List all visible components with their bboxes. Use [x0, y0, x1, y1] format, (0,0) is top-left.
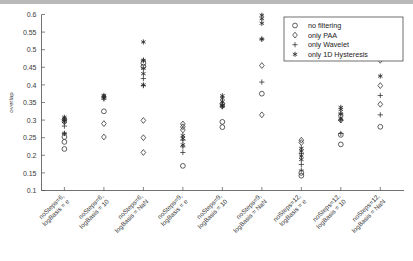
data-point-circle: [378, 124, 383, 129]
data-point-circle: [338, 142, 343, 147]
data-point-star: [260, 21, 264, 26]
x-tick-label: noSteps=6,logBasis = 10: [72, 192, 111, 231]
data-point-circle: [259, 91, 264, 96]
legend: no filteringonly PAAonly Waveletonly 1D …: [284, 17, 403, 61]
data-point-circle: [62, 140, 67, 145]
x-tick-label: noSteps=9,logBasis = 10: [191, 192, 230, 231]
data-point-diamond: [378, 101, 383, 107]
data-point-circle: [101, 109, 106, 114]
x-tick-label: noSteps=12,logBasis = 10: [309, 192, 348, 231]
data-point-diamond: [260, 63, 265, 69]
y-tick-label: 0.2: [27, 152, 37, 159]
data-point-plus: [378, 112, 383, 117]
y-tick-label: 0.35: [23, 99, 37, 106]
data-point-star: [141, 39, 145, 44]
data-point-star: [339, 105, 343, 110]
data-point-circle: [180, 163, 185, 168]
x-tick-label: noSteps=9,logBasis = NaN: [226, 192, 269, 235]
y-tick-label: 0.15: [23, 170, 37, 177]
series-circle: [62, 61, 383, 178]
data-point-star: [62, 115, 66, 120]
legend-label: only 1D Hysteresis: [308, 50, 368, 59]
data-point-plus: [299, 162, 304, 167]
y-axis-label: overlap: [7, 92, 14, 113]
data-point-diamond: [141, 150, 146, 156]
y-tick-label: 0.25: [23, 134, 37, 141]
data-point-star: [378, 74, 382, 79]
data-point-star: [141, 82, 145, 87]
x-tick-label: noSteps=12,logBasis = e: [272, 192, 309, 229]
y-tick-label: 0.45: [23, 64, 37, 71]
y-tick-label: 0.6: [27, 11, 37, 18]
data-point-star: [141, 71, 145, 76]
data-point-circle: [62, 147, 67, 152]
x-tick-group: noSteps=6,logBasis = enoSteps=6,logBasis…: [35, 187, 387, 235]
x-tick-label: noSteps=9,logBasis = e: [154, 192, 190, 228]
data-point-diamond: [378, 83, 383, 89]
y-tick-label: 0.5: [27, 46, 37, 53]
x-tick-label: noSteps=12,logBasis = NaN: [345, 192, 388, 235]
data-point-diamond: [102, 121, 107, 127]
legend-label: only PAA: [308, 31, 337, 40]
data-point-star: [260, 13, 264, 18]
data-point-diamond: [141, 118, 146, 124]
data-point-star: [299, 153, 303, 158]
legend-label: only Wavelet: [308, 40, 349, 49]
data-point-plus: [62, 123, 67, 128]
data-point-plus: [141, 76, 146, 81]
data-point-diamond: [102, 134, 107, 140]
data-point-plus: [338, 131, 343, 136]
data-point-diamond: [260, 112, 265, 118]
data-point-diamond: [141, 135, 146, 141]
x-tick-label: noSteps=6,logBasis = NaN: [108, 192, 151, 235]
scatter-plot: 0.10.150.20.250.30.350.40.450.50.550.6ov…: [0, 0, 413, 261]
legend-label: no filtering: [308, 21, 341, 30]
x-tick-label: noSteps=6,logBasis = e: [35, 192, 71, 228]
data-point-circle: [220, 119, 225, 124]
data-point-plus: [259, 79, 264, 84]
y-tick-label: 0.1: [27, 187, 37, 194]
y-tick-label: 0.4: [27, 82, 37, 89]
data-point-plus: [180, 150, 185, 155]
y-tick-label: 0.3: [27, 117, 37, 124]
data-point-plus: [378, 93, 383, 98]
figure-canvas: 0.10.150.20.250.30.350.40.450.50.550.6ov…: [0, 0, 413, 261]
data-point-circle: [220, 125, 225, 130]
y-tick-label: 0.55: [23, 29, 37, 36]
